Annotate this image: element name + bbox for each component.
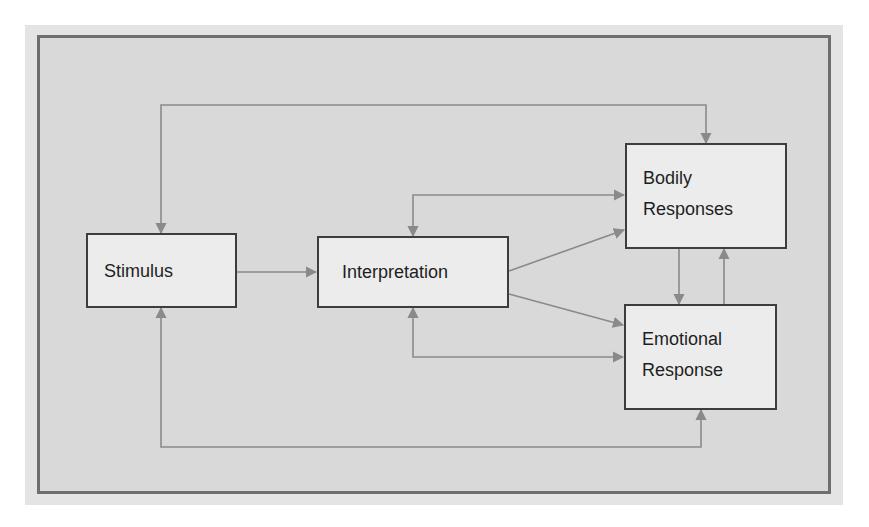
edge-interpretation-bodily-loop xyxy=(413,195,624,236)
edge-interpretation-bodily xyxy=(509,230,624,271)
node-interpretation-label: Interpretation xyxy=(342,261,448,283)
edge-stimulus-emotional-bottom-loop xyxy=(161,308,701,447)
node-emotional-label-line2: Response xyxy=(642,359,775,381)
node-interpretation: Interpretation xyxy=(317,236,509,308)
edge-interpretation-emotional-loop xyxy=(413,308,623,357)
node-emotional-label-line1: Emotional xyxy=(642,328,775,350)
node-stimulus: Stimulus xyxy=(86,233,237,308)
edge-interpretation-emotional xyxy=(509,294,623,325)
node-bodily-responses: Bodily Responses xyxy=(625,143,787,249)
node-emotional-response: Emotional Response xyxy=(624,304,777,410)
node-stimulus-label: Stimulus xyxy=(104,260,173,282)
node-bodily-label-line1: Bodily xyxy=(643,167,785,189)
node-bodily-label-line2: Responses xyxy=(643,198,785,220)
